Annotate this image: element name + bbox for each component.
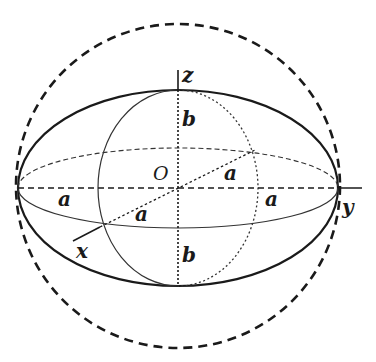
b-top-label: b: [182, 107, 196, 131]
a-diag-lower-label: a: [135, 202, 148, 226]
b-bottom-label: b: [182, 243, 196, 267]
y-axis-label: y: [341, 195, 355, 219]
a-diag-upper-label: a: [224, 161, 237, 185]
origin-label: O: [153, 162, 169, 184]
z-axis-label: z: [181, 63, 194, 87]
spheroid-diagram: z y x O b b a a a a: [0, 0, 376, 362]
a-left-label: a: [58, 187, 71, 211]
x-axis-label: x: [75, 239, 89, 263]
a-right-label: a: [265, 187, 278, 211]
